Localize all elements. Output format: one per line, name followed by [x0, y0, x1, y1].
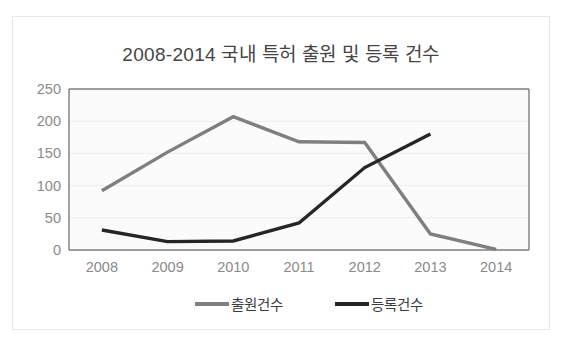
chart-container: 2008-2014 국내 특허 출원 및 등록 건수 0501001502002…: [12, 16, 550, 330]
line-chart-svg: 050100150200250 200820092010201120122013…: [13, 17, 551, 331]
chart-legend: 출원건수등록건수: [195, 297, 423, 313]
legend-label: 출원건수: [231, 297, 283, 313]
y-tick-label: 0: [53, 242, 61, 258]
x-tick-label: 2012: [349, 259, 381, 275]
x-tick-label: 2014: [480, 259, 512, 275]
x-axis-tick-labels: 2008200920102011201220132014: [86, 259, 513, 275]
y-tick-label: 200: [37, 113, 61, 129]
y-tick-label: 100: [37, 178, 61, 194]
x-tick-label: 2011: [283, 259, 314, 275]
y-axis-tick-labels: 050100150200250: [37, 81, 61, 258]
x-tick-label: 2010: [217, 259, 249, 275]
x-tick-label: 2013: [414, 259, 446, 275]
y-tick-label: 50: [45, 210, 61, 226]
y-tick-label: 250: [37, 81, 61, 97]
plot-area-wrapper: 050100150200250 200820092010201120122013…: [13, 17, 551, 331]
x-tick-label: 2008: [86, 259, 118, 275]
y-tick-label: 150: [37, 145, 61, 161]
x-tick-label: 2009: [151, 259, 183, 275]
legend-label: 등록건수: [371, 297, 423, 313]
